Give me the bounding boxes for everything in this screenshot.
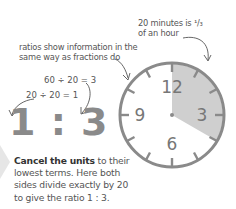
caption-text: Cancel the units to their lowest terms. … bbox=[14, 155, 134, 204]
clock-number-3: 3 bbox=[197, 105, 208, 125]
equation-60-div-20: 60 ÷ 20 = 3 bbox=[44, 75, 96, 85]
ratio-result: 1 : 3 bbox=[9, 100, 109, 144]
shaded-sector bbox=[172, 64, 223, 141]
clock-number-12: 12 bbox=[161, 77, 183, 97]
note-20-minutes: 20 minutes is ¹/₃ of an hour bbox=[138, 18, 203, 38]
equation-20-div-20: 20 ÷ 20 = 1 bbox=[26, 90, 78, 100]
clock-number-9: 9 bbox=[135, 105, 146, 125]
clock-center bbox=[170, 113, 174, 117]
note-ratios-fractions: ratios show information in the same way … bbox=[19, 42, 138, 62]
clock-number-6: 6 bbox=[167, 134, 178, 154]
caption-bold: Cancel the units bbox=[14, 155, 95, 166]
